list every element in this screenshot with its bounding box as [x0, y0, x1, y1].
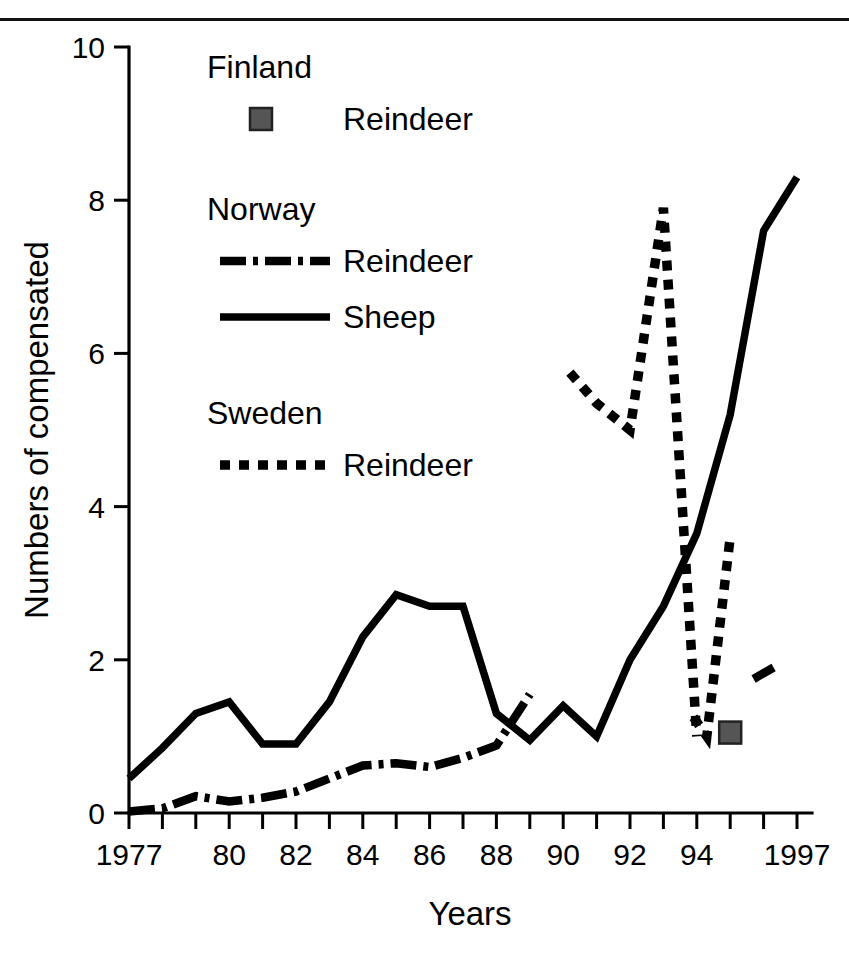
x-tick-label: 1997 [764, 838, 831, 871]
x-tick-label: 92 [613, 838, 646, 871]
series-norway-reindeer [129, 694, 530, 811]
legend-label: Reindeer [343, 243, 473, 279]
y-tick-marks [114, 47, 129, 813]
x-tick-label: 1977 [96, 838, 163, 871]
x-tick-label: 86 [413, 838, 446, 871]
chart-canvas: 0246810 197780828486889092941997 Numbers… [0, 0, 849, 967]
x-tick-label: 90 [547, 838, 580, 871]
y-tick-label: 4 [88, 491, 105, 524]
legend-label: Sheep [343, 299, 436, 335]
figure-page: 0246810 197780828486889092941997 Numbers… [0, 0, 849, 967]
legend-label: Reindeer [343, 447, 473, 483]
legend-entry-finland-reindeer: Reindeer [250, 101, 473, 137]
chart-legend: FinlandReindeerNorwayReindeerSheepSweden… [207, 49, 473, 483]
x-tick-labels: 197780828486889092941997 [96, 838, 831, 871]
legend-group-norway: Norway [207, 191, 315, 227]
y-axis-title: Numbers of compensated [18, 241, 55, 619]
x-tick-label: 88 [480, 838, 513, 871]
legend-group-sweden: Sweden [207, 395, 323, 431]
x-tick-label: 80 [213, 838, 246, 871]
x-axis-title: Years [428, 895, 511, 932]
y-tick-label: 6 [88, 337, 105, 370]
x-tick-marks [129, 813, 797, 829]
y-tick-label: 8 [88, 184, 105, 217]
finland-reindeer-marker [719, 722, 741, 744]
series-sweden-reindeer-segment-2 [693, 537, 730, 736]
legend-entry-norway-sheep: Sheep [220, 299, 436, 335]
x-tick-label: 84 [346, 838, 379, 871]
x-tick-label: 82 [279, 838, 312, 871]
line-chart: 0246810 197780828486889092941997 Numbers… [0, 0, 849, 967]
legend-entry-norway-reindeer: Reindeer [220, 243, 473, 279]
legend-group-finland: Finland [207, 49, 312, 85]
legend-label: Reindeer [343, 101, 473, 137]
series-norway-reindeer-late [754, 667, 774, 678]
legend-entry-sweden-reindeer: Reindeer [220, 447, 473, 483]
y-tick-labels: 0246810 [72, 31, 105, 830]
x-tick-label: 94 [680, 838, 713, 871]
y-tick-label: 2 [88, 644, 105, 677]
y-tick-label: 0 [88, 797, 105, 830]
legend-swatch-square [250, 108, 272, 130]
y-tick-label: 10 [72, 31, 105, 64]
